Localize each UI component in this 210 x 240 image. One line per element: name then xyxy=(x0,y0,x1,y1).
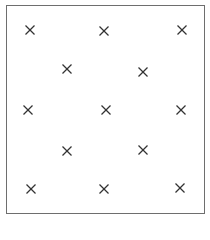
x-mark-icon xyxy=(26,184,37,195)
x-mark-icon xyxy=(176,105,187,116)
x-mark-icon xyxy=(62,146,73,157)
x-mark-icon xyxy=(101,105,112,116)
x-mark-icon xyxy=(99,184,110,195)
x-mark-icon xyxy=(138,145,149,156)
x-mark-icon xyxy=(175,183,186,194)
x-mark-icon xyxy=(99,26,110,37)
x-mark-icon xyxy=(138,67,149,78)
x-mark-icon xyxy=(25,25,36,36)
x-mark-icon xyxy=(62,64,73,75)
x-mark-icon xyxy=(23,105,34,116)
x-mark-icon xyxy=(177,25,188,36)
